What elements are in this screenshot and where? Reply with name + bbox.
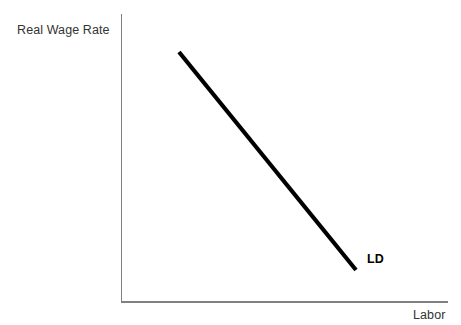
chart-canvas (0, 0, 461, 325)
x-axis-label: Labor (413, 308, 445, 322)
labor-demand-curve-label: LD (367, 252, 384, 266)
y-axis-label: Real Wage Rate (17, 23, 110, 37)
labor-demand-curve (179, 52, 356, 270)
labor-demand-chart: Real Wage Rate Labor LD (0, 0, 461, 325)
